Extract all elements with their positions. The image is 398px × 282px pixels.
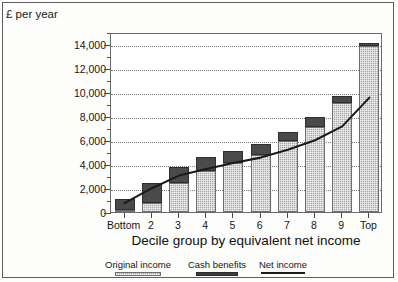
y-axis-tick-labels: 02,0004,0006,0008,00010,00012,00014,000 [52, 33, 106, 213]
chart-legend: Original incomeCash benefitsNet income [98, 259, 310, 279]
x-axis-tick-mark [178, 213, 179, 218]
x-axis-tick-label: 6 [257, 219, 263, 231]
legend-label: Net income [256, 259, 310, 270]
x-axis-tick-mark [124, 213, 125, 218]
y-axis-tick-label: 10,000 [74, 87, 106, 99]
plot-area [110, 33, 382, 213]
x-axis-tick-mark [341, 213, 342, 218]
y-axis-tick-label: 12,000 [74, 63, 106, 75]
chart-figure: £ per year 02,0004,0006,0008,00010,00012… [0, 0, 398, 282]
legend-swatch-cash-benefits [196, 272, 238, 276]
x-axis-tick-mark [232, 213, 233, 218]
net-income-line-series [111, 34, 383, 214]
x-axis-tick-mark [314, 213, 315, 218]
legend-label: Original income [98, 259, 178, 270]
legend-swatch-original-income [115, 272, 161, 276]
legend-item: Original income [98, 259, 178, 276]
x-axis-tick-label: 9 [338, 219, 344, 231]
y-axis-tick-label: 6,000 [80, 135, 106, 147]
legend-label: Cash benefits [180, 259, 254, 270]
y-axis-tick-label: 8,000 [80, 111, 106, 123]
plot-inner [111, 34, 381, 212]
x-axis-tick-mark [260, 213, 261, 218]
x-axis-tick-labels: Bottom23456789Top [110, 219, 382, 233]
x-axis-ticks [110, 213, 382, 218]
y-axis-tick-label: 14,000 [74, 39, 106, 51]
x-axis-title: Decile group by equivalent net income [110, 233, 382, 248]
x-axis-tick-label: 5 [229, 219, 235, 231]
y-axis-tick-label: 2,000 [80, 183, 106, 195]
x-axis-tick-label: 4 [202, 219, 208, 231]
legend-item: Cash benefits [180, 259, 254, 276]
x-axis-tick-mark [287, 213, 288, 218]
x-axis-tick-mark [205, 213, 206, 218]
x-axis-tick-label: 2 [148, 219, 154, 231]
x-axis-tick-label: 3 [175, 219, 181, 231]
x-axis-tick-label: Top [360, 219, 377, 231]
x-axis-tick-label: 8 [311, 219, 317, 231]
legend-swatch-net-income [261, 272, 305, 274]
x-axis-tick-label: Bottom [107, 219, 140, 231]
y-axis-unit-caption: £ per year [6, 8, 58, 20]
legend-item: Net income [256, 259, 310, 274]
y-axis-tick-label: 4,000 [80, 159, 106, 171]
x-axis-tick-label: 7 [284, 219, 290, 231]
x-axis-tick-mark [151, 213, 152, 218]
x-axis-tick-mark [368, 213, 369, 218]
